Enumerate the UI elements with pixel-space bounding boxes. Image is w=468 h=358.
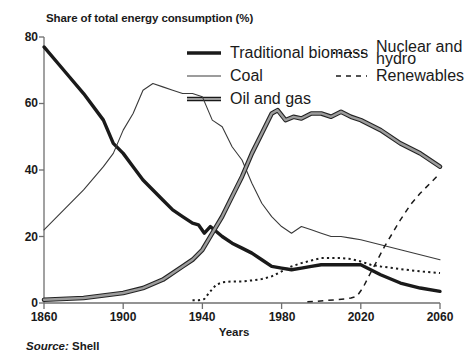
plot-canvas	[0, 0, 468, 358]
series-renewables	[307, 173, 440, 301]
axis-lines	[39, 37, 440, 309]
series-oil-and-gas	[44, 110, 440, 300]
energy-share-chart-figure: Share of total energy consumption (%) 80…	[0, 0, 468, 358]
